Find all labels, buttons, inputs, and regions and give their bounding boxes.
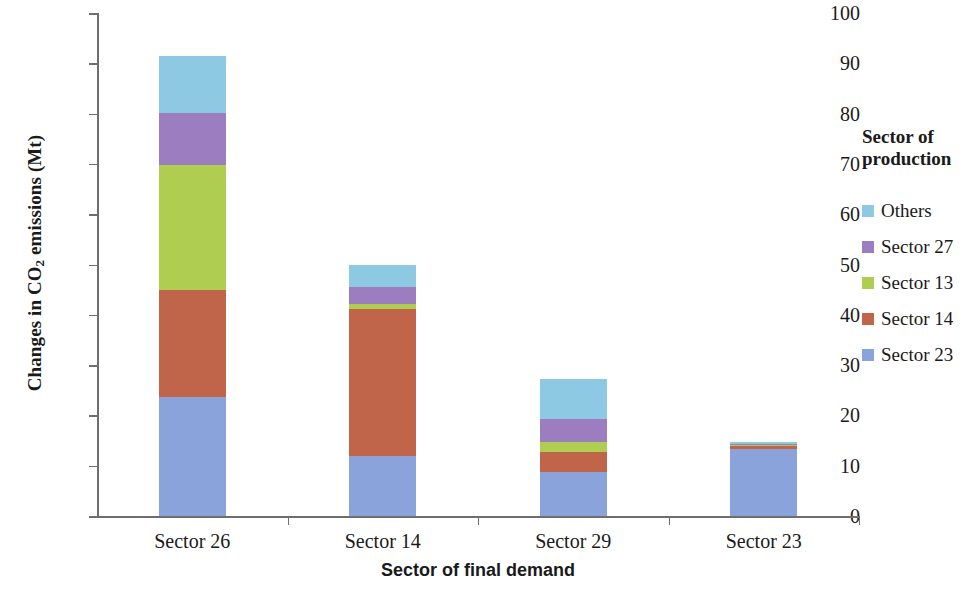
legend-item[interactable]: Others	[862, 193, 966, 229]
legend-item[interactable]: Sector 23	[862, 337, 966, 373]
x-tick-mark	[478, 516, 479, 525]
legend-swatch-icon	[862, 313, 874, 325]
bar-segment[interactable]	[349, 287, 416, 304]
legend-swatch-icon	[862, 349, 874, 361]
y-axis-title: Changes in CO2 emissions (Mt)	[24, 48, 46, 478]
legend-item-label: Others	[881, 200, 932, 222]
bar-segment[interactable]	[349, 456, 416, 516]
legend-title-line1: Sector of	[862, 126, 934, 147]
legend-item-list: OthersSector 27Sector 13Sector 14Sector …	[862, 193, 966, 373]
legend-title-line2: production	[862, 148, 951, 169]
bar-segment[interactable]	[159, 113, 226, 165]
legend-title: Sector of production	[862, 126, 966, 171]
bar-stack[interactable]	[349, 265, 416, 516]
plot-area	[97, 13, 857, 516]
bar-segment[interactable]	[540, 379, 607, 419]
x-category-label: Sector 14	[288, 530, 478, 553]
legend-item[interactable]: Sector 14	[862, 301, 966, 337]
x-category-label: Sector 29	[478, 530, 668, 553]
y-axis-title-post: emissions (Mt)	[24, 135, 45, 260]
x-axis-title: Sector of final demand	[97, 560, 859, 581]
x-tick-mark	[288, 516, 289, 525]
bar-stack[interactable]	[730, 442, 797, 516]
y-axis-title-subscript: 2	[32, 260, 47, 267]
bar-stack[interactable]	[159, 56, 226, 516]
bar-stack[interactable]	[540, 379, 607, 516]
y-axis-title-pre: Changes in CO	[24, 266, 45, 391]
bar-segment[interactable]	[159, 165, 226, 290]
bar-segment[interactable]	[349, 309, 416, 456]
legend-item[interactable]: Sector 13	[862, 265, 966, 301]
bar-segment[interactable]	[349, 265, 416, 288]
bar-segment[interactable]	[159, 290, 226, 397]
legend-item-label: Sector 14	[881, 308, 953, 330]
legend-swatch-icon	[862, 205, 874, 217]
bar-segment[interactable]	[540, 452, 607, 472]
bar-segment[interactable]	[159, 56, 226, 113]
bar-segment[interactable]	[159, 397, 226, 516]
legend-item-label: Sector 13	[881, 272, 953, 294]
legend-swatch-icon	[862, 241, 874, 253]
x-tick-mark	[859, 516, 860, 525]
legend-swatch-icon	[862, 277, 874, 289]
bar-segment[interactable]	[540, 442, 607, 452]
legend-item-label: Sector 27	[881, 236, 953, 258]
x-category-label: Sector 26	[97, 530, 287, 553]
legend-item[interactable]: Sector 27	[862, 229, 966, 265]
x-category-label: Sector 23	[669, 530, 859, 553]
bar-segment[interactable]	[730, 449, 797, 516]
bar-segment[interactable]	[540, 419, 607, 441]
chart-figure: Changes in CO2 emissions (Mt) 0102030405…	[0, 0, 966, 590]
x-tick-mark	[669, 516, 670, 525]
legend-item-label: Sector 23	[881, 344, 953, 366]
chart-legend: Sector of production OthersSector 27Sect…	[862, 126, 966, 373]
bar-segment[interactable]	[540, 472, 607, 516]
